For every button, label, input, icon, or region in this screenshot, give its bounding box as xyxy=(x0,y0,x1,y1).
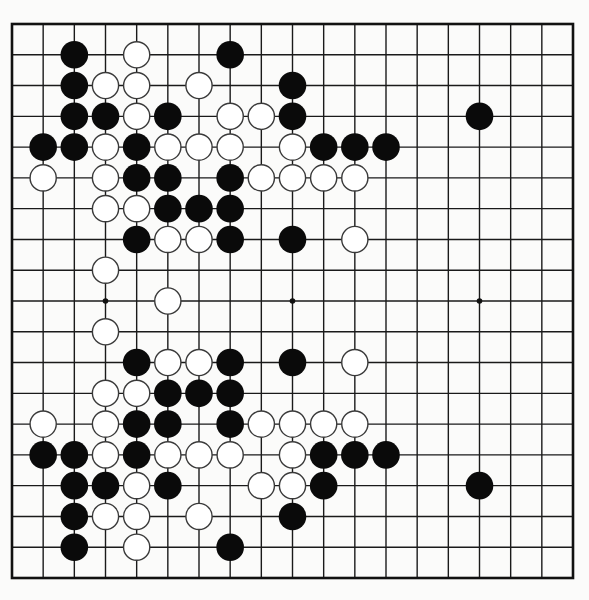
white-stone[interactable] xyxy=(92,319,118,345)
black-stone[interactable] xyxy=(154,380,182,408)
white-stone[interactable] xyxy=(186,503,212,529)
white-stone[interactable] xyxy=(279,165,305,191)
white-stone[interactable] xyxy=(248,411,274,437)
black-stone[interactable] xyxy=(92,472,120,500)
black-stone[interactable] xyxy=(216,380,244,408)
black-stone[interactable] xyxy=(123,410,151,438)
black-stone[interactable] xyxy=(216,410,244,438)
white-stone[interactable] xyxy=(217,442,243,468)
white-stone[interactable] xyxy=(248,165,274,191)
white-stone[interactable] xyxy=(217,103,243,129)
white-stone[interactable] xyxy=(155,349,181,375)
white-stone[interactable] xyxy=(248,103,274,129)
star-point xyxy=(103,298,109,304)
white-stone[interactable] xyxy=(92,196,118,222)
white-stone[interactable] xyxy=(124,42,150,68)
white-stone[interactable] xyxy=(186,442,212,468)
white-stone[interactable] xyxy=(92,72,118,98)
white-stone[interactable] xyxy=(217,134,243,160)
white-stone[interactable] xyxy=(342,165,368,191)
black-stone[interactable] xyxy=(216,195,244,223)
white-stone[interactable] xyxy=(186,226,212,252)
black-stone[interactable] xyxy=(185,380,213,408)
white-stone[interactable] xyxy=(30,411,56,437)
white-stone[interactable] xyxy=(92,134,118,160)
black-stone[interactable] xyxy=(466,103,494,131)
white-stone[interactable] xyxy=(92,411,118,437)
black-stone[interactable] xyxy=(279,503,307,531)
white-stone[interactable] xyxy=(124,473,150,499)
black-stone[interactable] xyxy=(61,533,89,561)
white-stone[interactable] xyxy=(342,411,368,437)
black-stone[interactable] xyxy=(154,103,182,131)
white-stone[interactable] xyxy=(124,72,150,98)
black-stone[interactable] xyxy=(61,41,89,69)
black-stone[interactable] xyxy=(92,103,120,131)
black-stone[interactable] xyxy=(29,133,57,161)
white-stone[interactable] xyxy=(92,442,118,468)
white-stone[interactable] xyxy=(155,226,181,252)
black-stone[interactable] xyxy=(279,103,307,131)
white-stone[interactable] xyxy=(155,442,181,468)
white-stone[interactable] xyxy=(248,473,274,499)
go-board[interactable] xyxy=(0,0,589,600)
white-stone[interactable] xyxy=(186,134,212,160)
black-stone[interactable] xyxy=(216,164,244,192)
white-stone[interactable] xyxy=(279,411,305,437)
go-diagram xyxy=(0,0,589,600)
white-stone[interactable] xyxy=(311,165,337,191)
black-stone[interactable] xyxy=(279,226,307,254)
black-stone[interactable] xyxy=(61,133,89,161)
black-stone[interactable] xyxy=(154,164,182,192)
black-stone[interactable] xyxy=(216,226,244,254)
black-stone[interactable] xyxy=(61,72,89,100)
white-stone[interactable] xyxy=(279,473,305,499)
black-stone[interactable] xyxy=(372,133,400,161)
white-stone[interactable] xyxy=(155,134,181,160)
black-stone[interactable] xyxy=(29,441,57,469)
white-stone[interactable] xyxy=(124,196,150,222)
black-stone[interactable] xyxy=(341,441,369,469)
black-stone[interactable] xyxy=(61,103,89,131)
white-stone[interactable] xyxy=(342,226,368,252)
black-stone[interactable] xyxy=(61,441,89,469)
black-stone[interactable] xyxy=(341,133,369,161)
black-stone[interactable] xyxy=(279,72,307,100)
white-stone[interactable] xyxy=(124,534,150,560)
black-stone[interactable] xyxy=(123,164,151,192)
white-stone[interactable] xyxy=(342,349,368,375)
black-stone[interactable] xyxy=(123,349,151,377)
white-stone[interactable] xyxy=(186,72,212,98)
white-stone[interactable] xyxy=(92,165,118,191)
black-stone[interactable] xyxy=(61,472,89,500)
white-stone[interactable] xyxy=(30,165,56,191)
black-stone[interactable] xyxy=(61,503,89,531)
black-stone[interactable] xyxy=(216,349,244,377)
white-stone[interactable] xyxy=(186,349,212,375)
black-stone[interactable] xyxy=(154,410,182,438)
black-stone[interactable] xyxy=(216,41,244,69)
white-stone[interactable] xyxy=(92,380,118,406)
white-stone[interactable] xyxy=(124,380,150,406)
white-stone[interactable] xyxy=(92,257,118,283)
black-stone[interactable] xyxy=(310,472,338,500)
white-stone[interactable] xyxy=(155,288,181,314)
black-stone[interactable] xyxy=(154,472,182,500)
black-stone[interactable] xyxy=(123,226,151,254)
black-stone[interactable] xyxy=(216,533,244,561)
white-stone[interactable] xyxy=(311,411,337,437)
black-stone[interactable] xyxy=(372,441,400,469)
black-stone[interactable] xyxy=(310,441,338,469)
white-stone[interactable] xyxy=(124,503,150,529)
black-stone[interactable] xyxy=(466,472,494,500)
black-stone[interactable] xyxy=(279,349,307,377)
black-stone[interactable] xyxy=(185,195,213,223)
black-stone[interactable] xyxy=(310,133,338,161)
black-stone[interactable] xyxy=(123,441,151,469)
white-stone[interactable] xyxy=(279,134,305,160)
black-stone[interactable] xyxy=(154,195,182,223)
white-stone[interactable] xyxy=(279,442,305,468)
black-stone[interactable] xyxy=(123,133,151,161)
white-stone[interactable] xyxy=(92,503,118,529)
white-stone[interactable] xyxy=(124,103,150,129)
